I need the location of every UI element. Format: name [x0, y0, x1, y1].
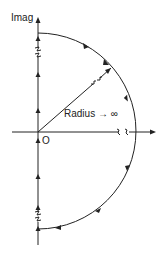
- contour-arrow-icon: [36, 138, 41, 143]
- radius-line: [38, 68, 111, 132]
- contour-arrow-icon: [36, 72, 41, 77]
- arc-arrow-icon: [83, 43, 89, 49]
- contour-arrow-icon: [36, 205, 41, 210]
- contour-arrow-icon: [36, 36, 41, 41]
- imag-axis-label: Imag: [11, 12, 33, 23]
- imag-axis-break-bottom-icon: [35, 211, 41, 221]
- real-axis: [12, 129, 156, 135]
- radius-label: Radius → ∞: [64, 108, 118, 119]
- radius-break-icon: [91, 77, 102, 84]
- imag-axis-break-top-icon: [35, 47, 41, 57]
- imaginary-axis: [35, 17, 41, 245]
- real-axis-arrow-icon: [150, 130, 156, 135]
- contour-arrow-icon: [36, 174, 41, 179]
- real-axis-break-icon: [117, 129, 128, 135]
- nyquist-contour-diagram: Imag O Radius → ∞: [0, 0, 163, 254]
- origin-label: O: [42, 135, 50, 146]
- imag-axis-arrow-icon: [36, 17, 41, 23]
- contour-arrow-icon: [36, 108, 41, 113]
